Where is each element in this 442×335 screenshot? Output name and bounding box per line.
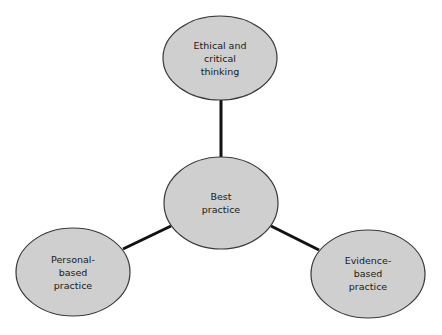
node-left-line-2: based	[59, 266, 88, 279]
node-right-label: Evidence- based practice	[311, 230, 425, 317]
node-top-line-2: critical	[204, 52, 236, 65]
diagram: Ethical and critical thinking Best pract…	[0, 0, 442, 335]
node-left-line-3: practice	[54, 279, 92, 292]
node-center-line-2: practice	[202, 203, 240, 216]
node-top-line-3: thinking	[201, 65, 240, 78]
node-top-line-1: Ethical and	[194, 39, 247, 52]
node-left-line-1: Personal-	[51, 253, 95, 266]
node-center-label: Best practice	[164, 157, 278, 249]
node-center-line-1: Best	[210, 190, 231, 203]
node-right-line-1: Evidence-	[345, 254, 392, 267]
node-left-label: Personal- based practice	[16, 229, 130, 316]
node-top-label: Ethical and critical thinking	[163, 17, 277, 99]
node-right-line-3: practice	[349, 280, 387, 293]
node-right-line-2: based	[354, 267, 383, 280]
